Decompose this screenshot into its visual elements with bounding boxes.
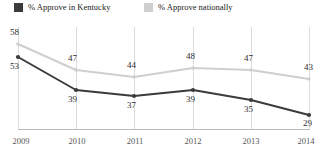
value-label-kentucky-2011: 37 <box>127 101 136 110</box>
value-label-national-2011: 44 <box>127 61 136 70</box>
x-axis-label-2011: 2011 <box>127 136 144 146</box>
value-label-national-2012: 48 <box>186 52 195 61</box>
x-axis-label-2014: 2014 <box>298 136 315 146</box>
value-label-kentucky-2009: 53 <box>10 62 19 71</box>
approval-line-chart: % Approve in Kentucky % Approve national… <box>0 0 325 160</box>
value-label-kentucky-2010: 39 <box>68 95 77 104</box>
value-label-national-2010: 47 <box>68 54 77 63</box>
value-label-national-2009: 58 <box>10 28 19 37</box>
series-markers-national <box>16 42 311 81</box>
series-line-national <box>18 44 309 79</box>
series-line-kentucky <box>18 57 309 115</box>
x-axis-label-2009: 2009 <box>13 136 30 146</box>
value-label-national-2014: 43 <box>304 63 313 72</box>
x-axis-labels: 2009 2010 2011 2012 2013 2014 <box>0 136 325 152</box>
value-label-kentucky-2012: 39 <box>186 95 195 104</box>
value-label-kentucky-2013: 35 <box>244 105 253 114</box>
x-axis-label-2010: 2010 <box>69 136 86 146</box>
x-axis-label-2013: 2013 <box>243 136 260 146</box>
x-axis-label-2012: 2012 <box>185 136 202 146</box>
gridlines <box>19 27 310 129</box>
value-label-kentucky-2014: 29 <box>303 119 312 128</box>
value-label-national-2013: 47 <box>244 54 253 63</box>
series-markers-kentucky <box>16 55 311 117</box>
